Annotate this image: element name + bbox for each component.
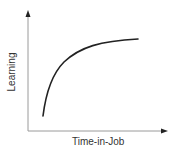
y-axis-label: Learning [6, 53, 17, 92]
learning-curve-line [43, 39, 138, 116]
y-axis-arrow-icon [26, 10, 31, 17]
learning-curve-chart [0, 0, 176, 153]
x-axis-arrow-icon [161, 129, 168, 134]
y-axis [26, 10, 31, 131]
x-axis [28, 129, 168, 134]
x-axis-label: Time-in-Job [72, 136, 124, 147]
